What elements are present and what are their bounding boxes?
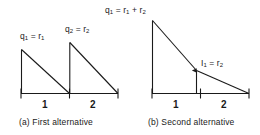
panel-a-depletion-2	[70, 43, 118, 94]
panel-a-tick-label-1: 1	[42, 100, 48, 110]
panel-a-drawing	[21, 43, 118, 99]
panel-b-tick-label-1: 1	[173, 100, 179, 110]
panel-a-depletion-1	[22, 50, 70, 94]
panel-b-interior-label: I1 = r2	[200, 59, 224, 68]
panel-b-tick-label-2: 2	[221, 100, 227, 110]
panel-a-tick-label-2: 2	[90, 100, 96, 110]
panel-a-peak-label-1: q1 = r1	[19, 32, 45, 41]
panel-b-depletion-1	[153, 21, 197, 71]
panel-a-peak-label-2: q2 = r2	[64, 25, 90, 34]
panel-b-depletion-2	[197, 71, 250, 94]
panel-a-caption: (a) First alternative	[19, 118, 93, 127]
figure-root: q1 = r1 q2 = r2 1 2 (a) First alternativ…	[0, 0, 260, 135]
panel-b-caption: (b) Second alternative	[148, 118, 234, 127]
panel-b-peak-label: q1 = r1 + r2	[104, 6, 147, 15]
